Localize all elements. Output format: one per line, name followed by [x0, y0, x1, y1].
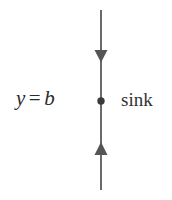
lower-flow-arrow-icon [95, 142, 108, 155]
equilibrium-operator: = [26, 86, 44, 110]
phase-line-figure: y=b sink [0, 0, 172, 200]
equilibrium-label: y=b [16, 88, 55, 109]
stability-classification-label: sink [121, 90, 153, 109]
equilibrium-value: b [44, 86, 55, 110]
equilibrium-point-marker [97, 97, 104, 104]
upper-flow-arrow-icon [95, 50, 108, 63]
equilibrium-variable: y [16, 86, 26, 110]
